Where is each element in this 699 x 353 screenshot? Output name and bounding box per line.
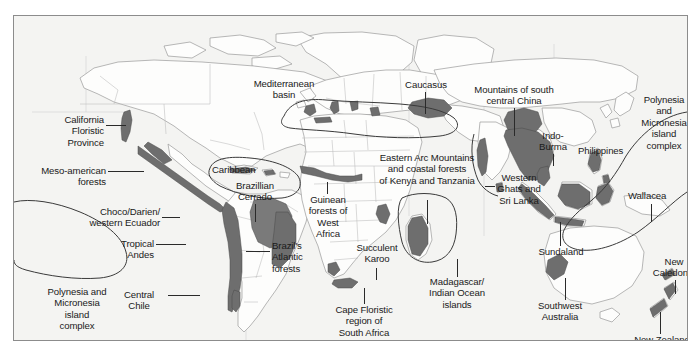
leader-southwest-aus <box>565 278 566 300</box>
map-label-choco-darien-western-ecuador: Choco/Darien/ western Ecuador <box>72 206 160 229</box>
leader-karoo <box>376 268 377 280</box>
leader-chile <box>168 295 200 296</box>
map-label-sundaland: Sundaland <box>530 246 592 257</box>
hotspot-med-maghreb <box>314 117 332 123</box>
map-label-new-caledonia: New Caledonia <box>642 256 688 279</box>
leader-caucasus <box>425 92 426 114</box>
map-label-brazils-atlantic-forests: Brazil's Atlantic forests <box>272 240 320 274</box>
map-label-california-floristic-province: California Floristic Province <box>32 114 104 148</box>
leader-cerrado <box>255 204 256 222</box>
map-label-guinean-forests-west-africa: Guinean forests of West Africa <box>296 194 360 240</box>
map-label-mountains-south-central-china: Mountains of south central China <box>460 84 568 107</box>
leader-china <box>514 108 515 136</box>
map-label-succulent-karoo: Succulent Karoo <box>348 242 406 265</box>
leader-wallacea <box>651 204 652 222</box>
map-label-indo-burma: Indo- Burma <box>532 130 574 153</box>
map-label-caucasus: Caucasus <box>395 79 457 90</box>
biodiversity-hotspots-figure: .coast { fill:#fdfdfc; stroke:#9a9a9a; s… <box>0 0 699 353</box>
leader-newzealand <box>660 312 661 334</box>
map-label-wallacea: Wallacea <box>628 190 686 201</box>
leader-newcaledonia <box>675 280 676 294</box>
hotspot-med-levant <box>370 107 380 116</box>
leader-guinean <box>327 182 328 194</box>
leader-sundaland <box>560 222 561 246</box>
map-label-central-chile: Central Chile <box>112 289 166 312</box>
map-label-eastern-arc-mountains: Eastern Arc Mountains and coastal forest… <box>360 152 494 186</box>
map-label-tropical-andes: Tropical Andes <box>92 238 154 261</box>
map-label-madagascar-indian-ocean: Madagascar/ Indian Ocean islands <box>414 276 500 310</box>
map-label-mediterranean-basin: Mediterranean basin <box>240 78 328 101</box>
leader-choco <box>162 217 180 218</box>
leader-andes <box>156 244 186 245</box>
leader-easternarc <box>427 200 428 224</box>
leader-mesoamerican <box>108 171 144 172</box>
map-label-polynesia-micronesia-right: Polynesia and Micronesia island complex <box>628 94 688 151</box>
map-label-new-zealand: New Zealand <box>622 334 688 341</box>
leader-cape <box>364 288 365 304</box>
leader-atlantic <box>246 251 270 252</box>
world-map-panel: .coast { fill:#fdfdfc; stroke:#9a9a9a; s… <box>13 15 688 341</box>
map-label-meso-american-forests: Meso-american forests <box>24 165 106 188</box>
leader-indoburma <box>553 154 554 166</box>
map-label-brazillian-cerrado: Brazillian Cerrado <box>226 180 284 203</box>
map-label-caribbean: Caribbean <box>212 164 274 175</box>
map-label-southwest-australia: Southwest Australia <box>522 300 598 323</box>
leader-madagascar <box>457 259 458 277</box>
map-label-cape-floristic-region: Cape Floristic region of South Africa <box>320 304 408 338</box>
leader-california <box>106 125 126 126</box>
map-label-western-ghats-sri-lanka: Western Ghats and Sri Lanka <box>488 172 550 206</box>
